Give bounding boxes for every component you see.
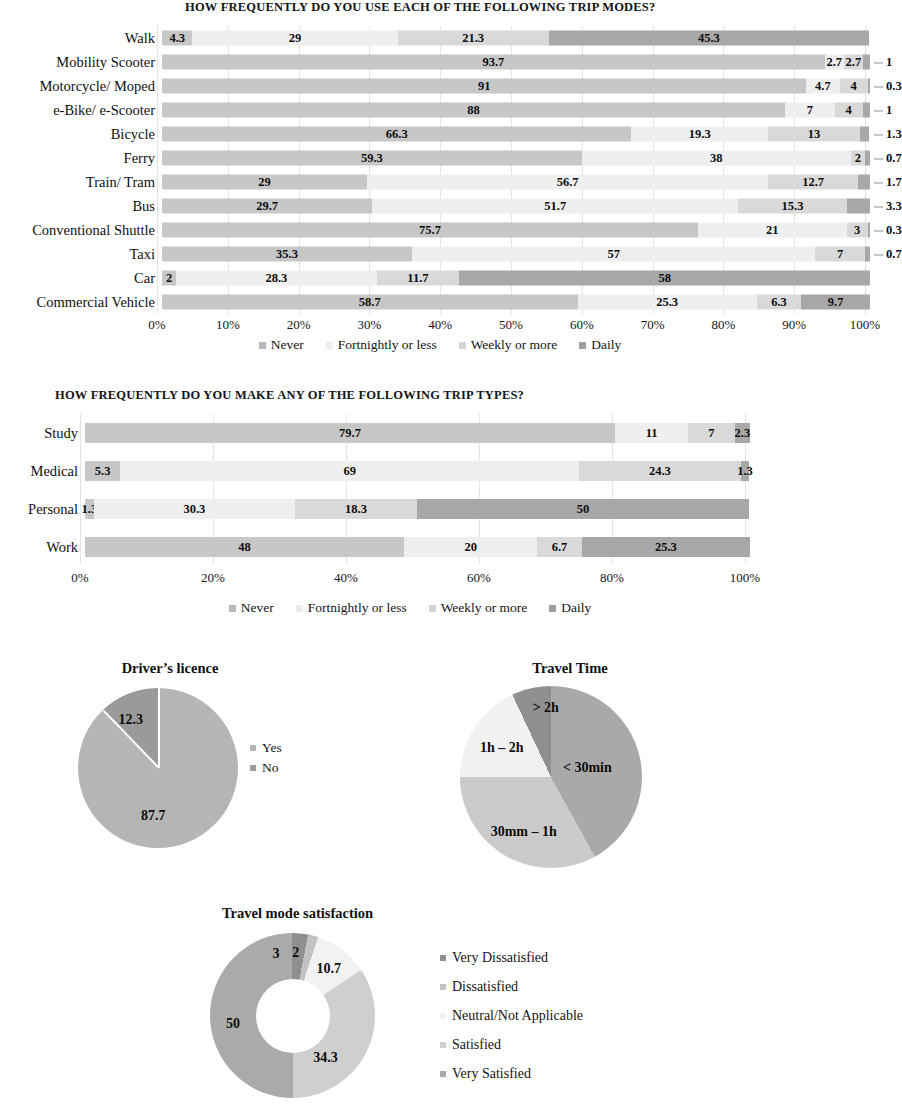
bar-segment-value: 93.7 [482,56,504,69]
bar-track: 88741 [162,98,870,122]
legend-item[interactable]: Dissatisfied [440,979,583,995]
bar-track: 59.33820.7 [162,146,870,170]
legend-swatch-icon [440,1013,446,1019]
bar-segment: 29 [192,31,397,46]
bar-track: 48206.725.3 [85,528,750,566]
legend-swatch-icon [440,955,446,961]
bar-row-label: Motorcycle/ Moped [0,78,162,95]
bar-segment: 88 [162,103,785,118]
bar-segment: 1.3 [741,461,750,481]
bar-segment: 30.3 [94,499,295,519]
bar-segment-value: 58 [658,272,671,285]
bar-segment-value: 2 [855,152,861,165]
bar-row: Walk4.32921.345.3 [0,26,893,50]
bar-segment: 2.7 [844,55,863,70]
legend-item[interactable]: Yes [250,740,282,756]
legend-item-label: Fortnightly or less [338,337,437,353]
bar-segment: 2.3 [735,423,750,443]
bar-segment-value: 75.7 [419,224,441,237]
stacked-bar: 48206.725.3 [85,537,750,557]
legend-item[interactable]: Satisfied [440,1037,583,1053]
legend-item[interactable]: Weekly or more [459,337,558,353]
x-axis-tick-label: 0% [148,317,165,333]
bar-segment: 91 [162,79,806,94]
bar-segment-value: 11.7 [407,272,428,285]
x-axis-tick-label: 50% [499,317,523,333]
pie-slice-label-30min-1h: 30mm – 1h [491,824,557,840]
bar-segment: 2 [851,151,865,166]
bar-segment-value: 4.3 [169,32,185,45]
legend-item[interactable]: Never [259,337,304,353]
bar-segment-value: 24.3 [649,465,671,478]
legend-item[interactable]: No [250,760,282,776]
bar-segment-value: 2.3 [735,427,751,440]
bar-segment-value: 9.7 [828,296,844,309]
drivers-licence-pie: 87.7 12.3 [78,688,238,848]
legend-item[interactable]: Very Satisfied [440,1066,583,1082]
legend-item[interactable]: Fortnightly or less [326,337,437,353]
x-axis-tick-label: 10% [216,317,240,333]
bar-segment-value: 59.3 [361,152,383,165]
bar-segment: 2 [162,271,176,286]
x-axis-tick-label: 30% [357,317,381,333]
bar-segment: 12.7 [768,175,858,190]
stacked-bar: 75.7213 [162,223,870,238]
bar-segment: 48 [85,537,404,557]
legend-swatch-icon [296,605,303,612]
bar-row: Study79.71172.3 [0,414,893,452]
bar-segment: 11.7 [377,271,460,286]
bar-outside-value: 0.3 [886,79,902,93]
bar-segment [868,223,870,238]
chart-trip-modes-legend: NeverFortnightly or lessWeekly or moreDa… [205,337,675,353]
bar-segment-value: 7 [807,104,813,117]
stacked-bar: 58.725.36.39.7 [162,295,870,310]
donut-slice-label-dissatisfied: 2 [292,945,299,961]
bar-segment [868,79,870,94]
satisfaction-legend: Very DissatisfiedDissatisfiedNeutral/Not… [440,950,583,1095]
bar-segment: 7 [815,247,865,262]
legend-item[interactable]: Neutral/Not Applicable [440,1008,583,1024]
bar-segment: 13 [768,127,860,142]
bar-segment: 29 [162,175,367,190]
x-axis-tick-label: 20% [201,570,225,586]
stacked-bar: 4.32921.345.3 [162,31,870,46]
legend-item-label: Never [271,337,304,353]
bar-segment: 1.3 [85,499,94,519]
bar-segment: 29.7 [162,199,372,214]
bar-segment-value: 28.3 [265,272,287,285]
bar-track: 93.72.72.71 [162,50,870,74]
legend-swatch-icon [229,605,236,612]
bar-segment: 75.7 [162,223,698,238]
legend-item[interactable]: Daily [579,337,621,353]
bar-outside-label: 1.7 [874,175,902,190]
bar-track: 66.319.3131.3 [162,122,870,146]
legend-swatch-icon [440,1071,446,1077]
bar-row: Car228.311.758 [0,266,893,290]
legend-item-label: Daily [561,600,591,616]
legend-item[interactable]: Weekly or more [429,600,528,616]
bar-segment [865,247,870,262]
legend-item[interactable]: Daily [549,600,591,616]
legend-item[interactable]: Very Dissatisfied [440,950,583,966]
bar-segment-value: 29.7 [256,200,278,213]
pie-slice-label-under-30min: < 30min [563,760,612,776]
bar-row-label: Study [0,425,85,442]
bar-segment-value: 38 [710,152,723,165]
bar-row: Ferry59.33820.7 [0,146,893,170]
bar-row-label: Conventional Shuttle [0,222,162,239]
stacked-bar: 1.330.318.350 [85,499,750,519]
bar-track: 75.72130.3 [162,218,870,242]
bar-segment: 35.3 [162,247,412,262]
bar-row-label: Work [0,539,85,556]
bar-row-label: Taxi [0,246,162,263]
x-axis-tick-label: 0% [71,570,88,586]
bar-row-label: Bicycle [0,126,162,143]
bar-segment-value: 50 [577,503,590,516]
bar-segment [863,55,870,70]
legend-item[interactable]: Fortnightly or less [296,600,407,616]
bar-row-label: Walk [0,30,162,47]
bar-track: 35.35770.7 [162,242,870,266]
bar-segment: 18.3 [295,499,417,519]
legend-item[interactable]: Never [229,600,274,616]
x-axis-tick-label: 40% [428,317,452,333]
